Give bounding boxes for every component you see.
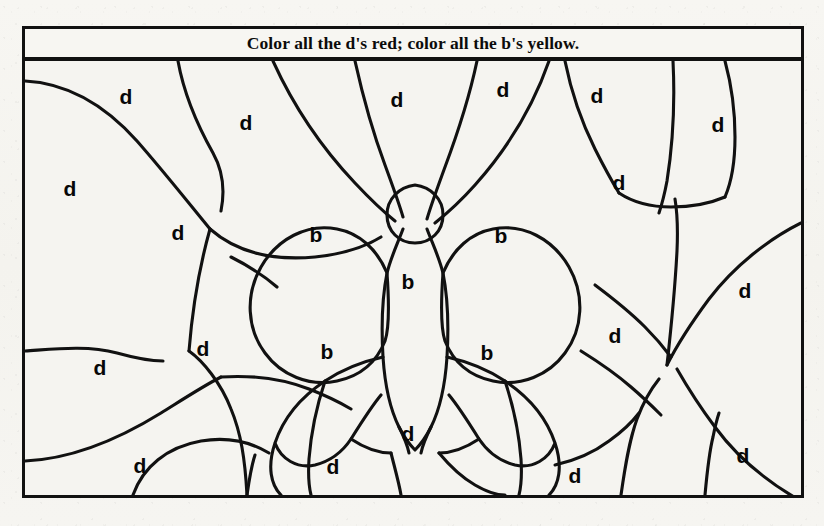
region-letter-d-10[interactable]: d: [94, 357, 107, 378]
butterfly-lower-left-wing-inner: [309, 381, 325, 495]
butterfly-head: [387, 185, 443, 243]
region-letter-d-8[interactable]: d: [613, 172, 626, 193]
bg-line-topright-4: [725, 61, 735, 197]
instruction-text: Color all the d's red; color all the b's…: [247, 33, 579, 54]
worksheet-page: Color all the d's red; color all the b's…: [0, 0, 824, 526]
bg-line-left-vert: [189, 351, 247, 495]
region-letter-d-2[interactable]: d: [391, 89, 404, 110]
bg-line-right-mid: [677, 369, 801, 495]
region-letter-b-22[interactable]: b: [481, 342, 494, 363]
bg-line-antenna-right-outer: [435, 61, 549, 223]
bg-line-rightmid-1: [595, 285, 671, 357]
bg-line-bottom-center-right: [439, 453, 505, 495]
bg-line-topright-1: [565, 61, 619, 193]
instruction-bar: Color all the d's red; color all the b's…: [25, 29, 801, 61]
region-letter-d-0[interactable]: d: [120, 86, 133, 107]
region-letter-d-9[interactable]: d: [739, 280, 752, 301]
region-letter-b-18[interactable]: b: [310, 224, 323, 245]
coloring-canvas[interactable]: ddddddddddddddddddbbbbb: [25, 61, 801, 495]
region-letter-b-21[interactable]: b: [321, 341, 334, 362]
region-letter-d-15[interactable]: d: [327, 456, 340, 477]
region-letter-d-7[interactable]: d: [172, 222, 185, 243]
region-letter-d-12[interactable]: d: [609, 325, 622, 346]
bg-line-topright-2: [619, 193, 725, 207]
bg-line-left-lower-vert: [247, 455, 255, 495]
bg-line-left-down: [189, 229, 210, 351]
bg-line-right-vert: [667, 199, 677, 365]
bg-line-topright-3: [659, 61, 674, 213]
region-letter-b-19[interactable]: b: [495, 225, 508, 246]
bg-line-lower-left-diag: [25, 377, 221, 461]
bg-line-top-1: [178, 61, 223, 211]
butterfly-lower-right-wing: [447, 357, 559, 495]
region-letter-d-16[interactable]: d: [569, 465, 582, 486]
bg-line-right-swoop: [667, 223, 801, 365]
region-letter-d-1[interactable]: d: [240, 112, 253, 133]
region-letter-d-14[interactable]: d: [134, 455, 147, 476]
butterfly-lower-left-wing-edge: [351, 439, 391, 453]
region-letter-b-20[interactable]: b: [402, 271, 415, 292]
bg-line-rightmid-2: [581, 351, 661, 415]
region-letter-d-5[interactable]: d: [712, 114, 725, 135]
region-letter-d-13[interactable]: d: [402, 423, 415, 444]
bg-line-topleft-arc: [25, 81, 210, 229]
butterfly-lower-right-wing-edge: [439, 439, 479, 453]
butterfly-upper-left-wing: [250, 228, 388, 383]
worksheet-frame: Color all the d's red; color all the b's…: [22, 26, 804, 498]
butterfly-upper-right-wing: [442, 228, 580, 383]
butterfly-lower-right-wing-inner: [505, 381, 521, 495]
bg-line-bottom-center: [391, 453, 401, 495]
butterfly-body: [382, 229, 448, 450]
region-letter-d-4[interactable]: d: [591, 85, 604, 106]
region-letter-d-11[interactable]: d: [197, 338, 210, 359]
region-letter-d-3[interactable]: d: [497, 79, 510, 100]
region-letter-d-17[interactable]: d: [737, 445, 750, 466]
region-letter-d-6[interactable]: d: [64, 178, 77, 199]
